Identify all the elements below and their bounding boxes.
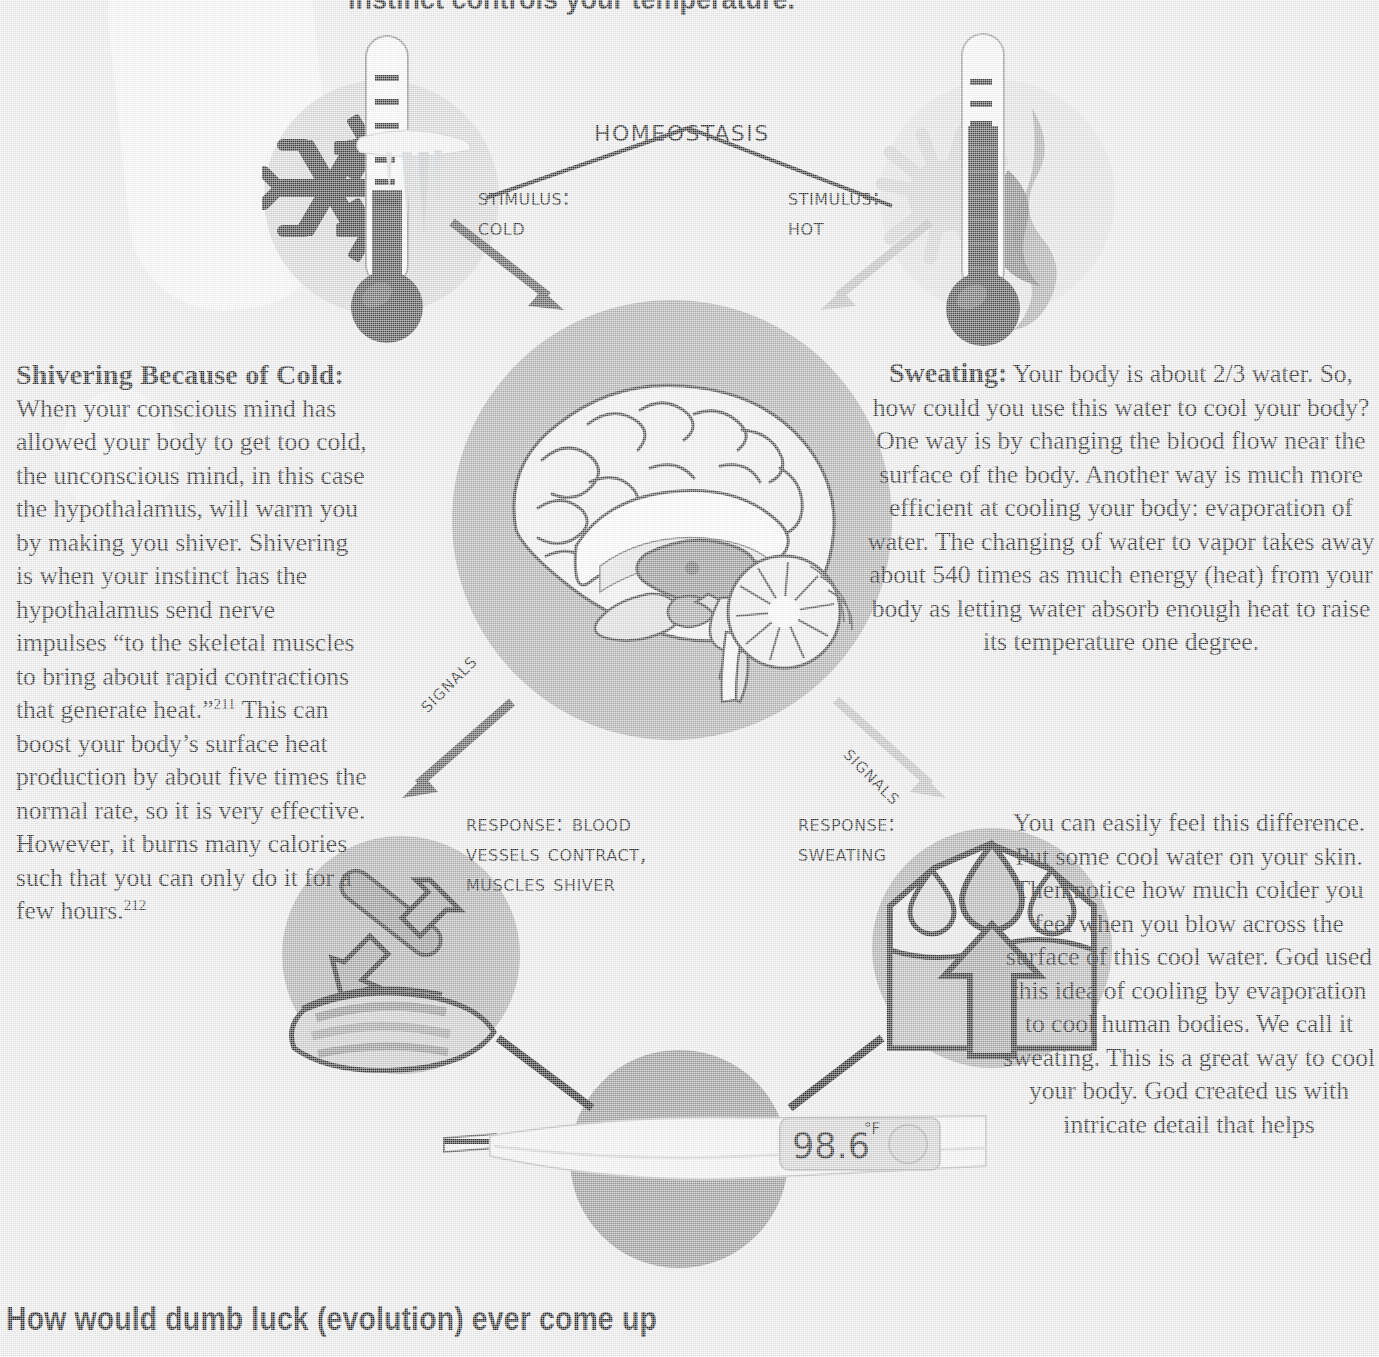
label-stimulus-hot: Stimulus: Hot [788,182,880,242]
label-response-cold: Response: Blood Vessels Contract, Muscle… [466,808,647,898]
label-homeostasis: Homeostasis [594,112,770,148]
bottom-banner-text: How would dumb luck (evolution) ever com… [6,1300,657,1338]
diagram-connectors [0,0,1379,1357]
label-stimulus-cold: Stimulus: Cold [478,182,570,242]
label-response-hot: Response: Sweating [798,808,896,868]
arrow-brain-to-shiver [402,702,512,798]
page-heading: instinct controls your temperature. [348,0,795,16]
connector-shiver-to-thermometer [498,1038,592,1108]
connector-sweat-to-thermometer [790,1038,882,1108]
